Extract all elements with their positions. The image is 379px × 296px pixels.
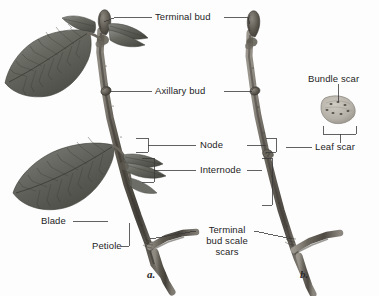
label-tbss-line1: Terminal bbox=[209, 224, 246, 235]
panel-label-b: b. bbox=[300, 268, 308, 280]
twig-b-artwork bbox=[245, 11, 340, 294]
leader-terminal-bud-a bbox=[104, 17, 152, 22]
bracket-leaf-scar bbox=[323, 126, 356, 134]
label-tbss-line3: scars bbox=[215, 246, 238, 257]
label-tbss-line2: bud scale bbox=[206, 235, 248, 246]
twig-b-stem-shade bbox=[249, 35, 297, 258]
bracket-node-a bbox=[136, 138, 148, 152]
label-node: Node bbox=[200, 139, 223, 150]
twig-b-lower-branch bbox=[294, 233, 340, 250]
twig-b-stem bbox=[249, 33, 303, 272]
twig-a-bud-scales-2 bbox=[96, 41, 105, 48]
twig-b-bud-scales-2 bbox=[245, 43, 253, 49]
blade-lower bbox=[13, 143, 114, 210]
leader-petiole bbox=[121, 223, 129, 246]
leader-terminal-bud-b bbox=[224, 17, 250, 24]
label-petiole: Petiole bbox=[92, 240, 122, 251]
label-axillary-bud: Axillary bud bbox=[155, 85, 205, 96]
panel-label-a: a. bbox=[147, 268, 155, 280]
label-bundle-scar: Bundle scar bbox=[308, 73, 359, 84]
label-terminal-bud: Terminal bud bbox=[155, 11, 211, 22]
label-blade: Blade bbox=[41, 215, 66, 226]
label-terminal-bud-scale-scars: Terminal bud scale scars bbox=[200, 224, 254, 257]
label-leaf-scar: Leaf scar bbox=[315, 141, 355, 152]
label-internode: Internode bbox=[200, 164, 241, 175]
twig-anatomy-figure: Terminal bud Axillary bud Node Internode… bbox=[0, 0, 379, 296]
